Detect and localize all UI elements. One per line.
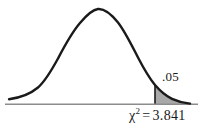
- critical-value-number: 3.841: [153, 108, 186, 123]
- critical-value-label: χ2=3.841: [129, 108, 186, 124]
- chi-square-distribution-figure: .05 χ2=3.841: [0, 0, 202, 131]
- alpha-level-label: .05: [162, 69, 179, 85]
- equals-sign: =: [140, 108, 152, 123]
- rejection-region-shading: [155, 85, 190, 105]
- density-curve: [9, 9, 190, 104]
